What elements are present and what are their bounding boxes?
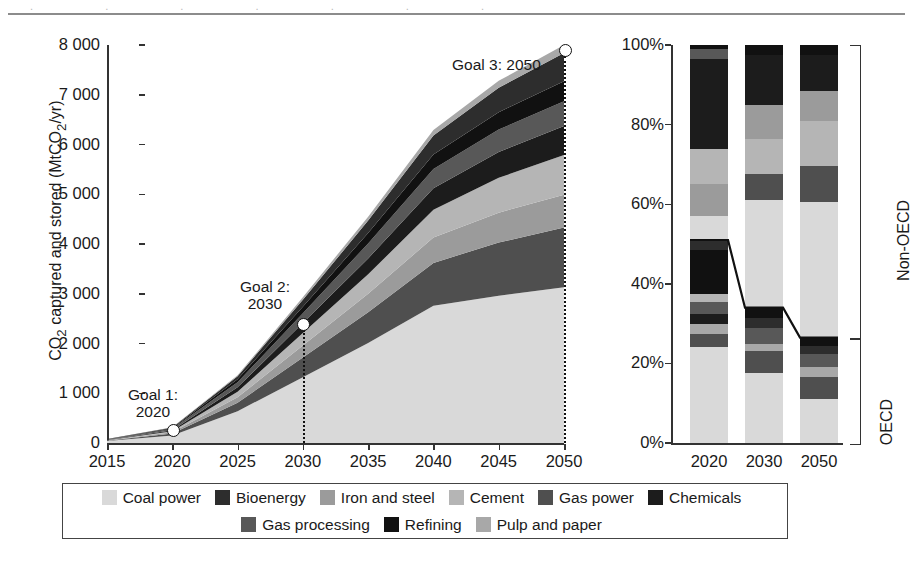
oecd-bracket-label: OECD (878, 399, 896, 445)
legend-item[interactable]: Coal power (102, 489, 208, 507)
legend-swatch-icon (384, 517, 399, 532)
non-oecd-bracket (850, 45, 861, 340)
legend-row: Coal powerBioenergyIron and steelCementG… (63, 484, 787, 511)
legend-row: Gas processingRefiningPulp and paper (63, 511, 787, 538)
legend-label: Cement (470, 489, 524, 507)
legend-label: Gas processing (262, 516, 370, 534)
legend-item[interactable]: Iron and steel (320, 489, 442, 507)
legend-item[interactable]: Bioenergy (215, 489, 313, 507)
legend-swatch-icon (241, 517, 256, 532)
goal-3-guide-line (564, 56, 566, 443)
oecd-bracket (850, 338, 861, 445)
legend-item[interactable]: Gas processing (241, 516, 377, 534)
legend-label: Bioenergy (236, 489, 306, 507)
legend-swatch-icon (449, 490, 464, 505)
goal-1-label: Goal 1: 2020 (128, 386, 178, 421)
legend-label: Chemicals (669, 489, 741, 507)
legend-swatch-icon (538, 490, 553, 505)
legend-item[interactable]: Refining (384, 516, 469, 534)
legend-swatch-icon (648, 490, 663, 505)
legend: Coal powerBioenergyIron and steelCementG… (62, 483, 788, 539)
legend-label: Coal power (123, 489, 201, 507)
legend-item[interactable]: Gas power (538, 489, 641, 507)
legend-swatch-icon (320, 490, 335, 505)
goal-3-label: Goal 3: 2050 (452, 56, 541, 73)
legend-item[interactable]: Chemicals (648, 489, 748, 507)
goal-1-marker[interactable] (167, 424, 180, 437)
header-divider (8, 13, 905, 15)
oecd-share-path (690, 240, 838, 338)
legend-swatch-icon (476, 517, 491, 532)
legend-item[interactable]: Cement (449, 489, 531, 507)
oecd-share-line (600, 20, 913, 475)
legend-label: Iron and steel (341, 489, 435, 507)
legend-label: Pulp and paper (497, 516, 602, 534)
goal-2-label: Goal 2: 2030 (240, 278, 290, 313)
legend-item[interactable]: Pulp and paper (476, 516, 609, 534)
legend-label: Refining (405, 516, 462, 534)
area-series-plot (0, 20, 600, 475)
legend-swatch-icon (215, 490, 230, 505)
cropped-text-remnant: , , , , , , , (30, 0, 890, 10)
non-oecd-bracket-label: Non-OECD (895, 200, 913, 281)
area-chart-panel: CO2 captured and stored (MtCO2/yr) 01 00… (0, 20, 600, 475)
legend-label: Gas power (559, 489, 634, 507)
legend-swatch-icon (102, 490, 117, 505)
goal-3-marker[interactable] (559, 44, 572, 57)
goal-2-guide-line (303, 330, 305, 443)
share-chart-panel: 0%20%40%60%80%100% 202020302050 Non-OECD… (600, 20, 913, 475)
